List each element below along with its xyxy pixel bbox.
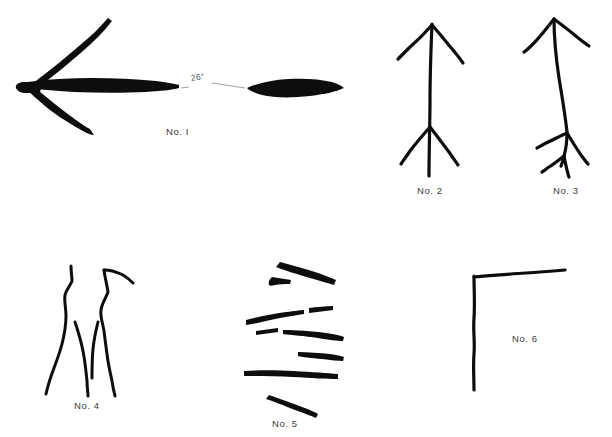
dimension-line-left — [181, 87, 189, 88]
no4-right-stroke — [101, 270, 115, 396]
arrow-shaft-left — [28, 78, 179, 93]
no5-dash-3 — [246, 310, 304, 325]
no4-inner-left-branch — [75, 322, 88, 396]
no2-top-left-barb — [398, 25, 432, 59]
no2-lower-left-barb — [401, 127, 430, 164]
no6-horizontal-stroke — [474, 270, 565, 277]
no4-inner-right-branch — [92, 322, 98, 378]
figure-plate: 26″ No. I No. 2 No. 3 No. 4 No. 5 No. 6 — [0, 0, 612, 437]
figure-no-2-drawing — [398, 24, 463, 176]
no3-stem — [554, 19, 567, 132]
arrow-shaft-right — [247, 79, 344, 98]
dimension-label-26-inches: 26″ — [191, 71, 205, 82]
no2-top-right-barb — [432, 25, 463, 63]
dimension-line-right — [212, 83, 245, 88]
figure-no-3-drawing — [524, 19, 589, 177]
no6-vertical-stroke — [474, 276, 475, 390]
figure-label-no-2: No. 2 — [417, 185, 443, 196]
no5-dash-7 — [298, 352, 344, 361]
no4-right-top-arm — [104, 270, 133, 283]
no5-dash-8 — [244, 370, 338, 379]
figure-label-no-4: No. 4 — [74, 400, 100, 411]
no2-stem — [429, 24, 432, 176]
figure-label-no-6: No. 6 — [512, 333, 538, 344]
figure-label-no-1: No. I — [166, 126, 189, 137]
figure-label-no-3: No. 3 — [553, 185, 579, 196]
no3-top-right-arm — [554, 19, 589, 46]
no5-dash-5 — [256, 328, 278, 335]
figure-plate-canvas — [0, 0, 612, 437]
figure-no-4-drawing — [46, 266, 133, 396]
no5-dash-6 — [283, 330, 344, 341]
no3-branch-lower-right — [564, 156, 569, 177]
no4-left-stroke — [46, 266, 72, 394]
no5-dash-2 — [269, 277, 291, 286]
figure-label-no-5: No. 5 — [272, 418, 298, 429]
no2-lower-right-barb — [430, 127, 458, 165]
no5-dash-4 — [309, 306, 333, 313]
no5-dash-9 — [266, 395, 318, 418]
no3-top-left-arm — [524, 19, 554, 52]
no3-branch-left — [537, 133, 567, 148]
figure-no-5-drawing — [244, 262, 344, 418]
no3-branch-right — [567, 133, 588, 164]
figure-no-6-drawing — [474, 270, 565, 390]
figure-no-1-drawing — [16, 18, 344, 135]
arrow-upper-barb — [30, 18, 112, 88]
